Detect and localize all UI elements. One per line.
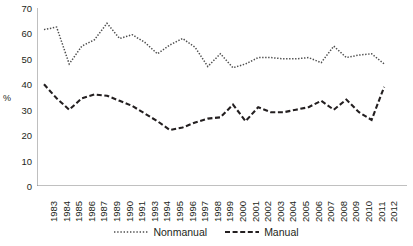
x-tick-label: 1994	[161, 201, 172, 222]
x-tick-label: 1984	[61, 201, 72, 222]
x-tick-label: 2011	[376, 202, 387, 222]
legend-dashed-line-icon	[225, 227, 259, 237]
plot-svg	[37, 8, 407, 186]
y-tick-label: 0	[8, 181, 32, 192]
x-tick-label: 2005	[300, 201, 311, 222]
x-tick-label: 2007	[325, 201, 336, 222]
y-tick-label: 60	[8, 28, 32, 39]
x-tick-label: 2003	[275, 201, 286, 222]
x-tick-label: 1998	[212, 201, 223, 222]
legend-label: Manual	[264, 226, 298, 238]
x-tick-label: 2010	[363, 201, 374, 222]
series-line-nonmanual	[44, 23, 384, 68]
y-tick-label: 30	[8, 104, 32, 115]
x-tick-label: 1997	[199, 201, 210, 222]
line-chart: % 706050403020100 1983198419851986198719…	[0, 0, 413, 246]
series-line-manual	[44, 84, 384, 130]
plot-area	[37, 8, 407, 186]
x-tick-label: 1990	[124, 201, 135, 222]
y-tick-label: 20	[8, 130, 32, 141]
x-tick-label: 1983	[48, 201, 59, 222]
x-tick-label: 2012	[388, 201, 399, 222]
y-tick-label: 10	[8, 155, 32, 166]
legend-label: Nonmanual	[153, 226, 207, 238]
x-tick-label: 1991	[136, 201, 147, 222]
y-axis-tick-labels: 706050403020100	[6, 0, 32, 246]
x-tick-label: 2006	[313, 201, 324, 222]
y-tick-label: 70	[8, 3, 32, 14]
x-tick-label: 1985	[73, 201, 84, 222]
y-tick-label: 40	[8, 79, 32, 90]
y-tick-label: 50	[8, 53, 32, 64]
x-tick-label: 1987	[98, 201, 109, 222]
x-tick-label: 2000	[237, 201, 248, 222]
legend-item: Nonmanual	[114, 226, 207, 238]
legend-dotted-line-icon	[114, 227, 148, 237]
x-tick-label: 1986	[86, 201, 97, 222]
x-tick-label: 2009	[350, 201, 361, 222]
x-tick-label: 1989	[111, 201, 122, 222]
x-tick-label: 2002	[262, 201, 273, 222]
chart-legend: NonmanualManual	[0, 226, 413, 238]
x-tick-label: 2001	[250, 201, 261, 222]
x-tick-label: 2004	[287, 201, 298, 222]
x-tick-label: 1993	[149, 201, 160, 222]
legend-item: Manual	[225, 226, 298, 238]
x-tick-label: 1995	[174, 201, 185, 222]
x-tick-label: 1996	[187, 201, 198, 222]
x-tick-label: 1999	[224, 201, 235, 222]
x-tick-label: 2008	[338, 201, 349, 222]
